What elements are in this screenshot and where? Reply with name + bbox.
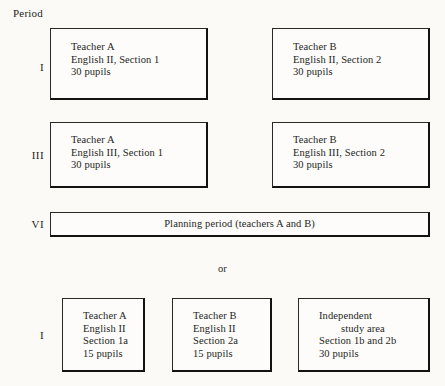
box-line: Teacher B <box>293 134 385 147</box>
box-line: Teacher A <box>83 310 128 323</box>
class-box-teacher-a-period-3: Teacher AEnglish III, Section 130 pupils <box>50 122 208 188</box>
diagram-canvas: Period I Teacher AEnglish II, Section 13… <box>0 0 445 386</box>
box-line: English III, Section 1 <box>71 147 163 160</box>
class-box-teacher-b-section-2a: Teacher BEnglish IISection 2a15 pupils <box>172 298 272 372</box>
box-line: English III, Section 2 <box>293 147 385 160</box>
class-box-text: Teacher BEnglish II, Section 230 pupils <box>293 41 381 79</box>
planning-period-bar: Planning period (teachers A and B) <box>50 212 430 237</box>
box-line: Teacher A <box>71 134 163 147</box>
class-box-teacher-b-period-1: Teacher BEnglish II, Section 230 pupils <box>272 28 430 100</box>
class-box-text: Teacher AEnglish IISection 1a15 pupils <box>83 310 128 360</box>
class-box-teacher-b-period-3: Teacher BEnglish III, Section 230 pupils <box>272 122 430 188</box>
box-line: Section 1a <box>83 335 128 348</box>
box-line: Teacher A <box>71 41 159 54</box>
class-box-independent-study-area: Independentstudy areaSection 1b and 2b30… <box>298 298 430 372</box>
box-line: 30 pupils <box>71 66 159 79</box>
box-line: study area <box>319 323 396 336</box>
planning-period-text: Planning period (teachers A and B) <box>51 218 428 229</box>
box-line: English II, Section 2 <box>293 54 381 67</box>
box-line: 15 pupils <box>83 348 128 361</box>
class-box-text: Teacher AEnglish II, Section 130 pupils <box>71 41 159 79</box>
alternative-separator-label: or <box>0 263 445 274</box>
box-line: Section 1b and 2b <box>319 335 396 348</box>
box-line: Teacher B <box>293 41 381 54</box>
box-line: 30 pupils <box>319 348 396 361</box>
class-box-text: Teacher AEnglish III, Section 130 pupils <box>71 134 163 172</box>
box-line: English II, Section 1 <box>71 54 159 67</box>
box-line: Independent <box>319 310 396 323</box>
box-line: 30 pupils <box>293 66 381 79</box>
period-label-row-4: I <box>0 329 44 341</box>
box-line: 15 pupils <box>193 348 238 361</box>
class-box-teacher-a-section-1a: Teacher AEnglish IISection 1a15 pupils <box>62 298 145 372</box>
box-line: Section 2a <box>193 335 238 348</box>
class-box-text: Teacher BEnglish IISection 2a15 pupils <box>193 310 238 360</box>
box-line: 30 pupils <box>293 159 385 172</box>
box-line: Teacher B <box>193 310 238 323</box>
class-box-text: Teacher BEnglish III, Section 230 pupils <box>293 134 385 172</box>
period-label-row-2: III <box>0 149 44 161</box>
class-box-teacher-a-period-1: Teacher AEnglish II, Section 130 pupils <box>50 28 208 100</box>
class-box-text: Independentstudy areaSection 1b and 2b30… <box>319 310 396 360</box>
box-line: English II <box>83 323 128 336</box>
box-line: 30 pupils <box>71 159 163 172</box>
period-label-row-1: I <box>0 61 44 73</box>
period-column-heading: Period <box>13 7 43 19</box>
box-line: English II <box>193 323 238 336</box>
period-label-row-3: VI <box>0 218 44 230</box>
